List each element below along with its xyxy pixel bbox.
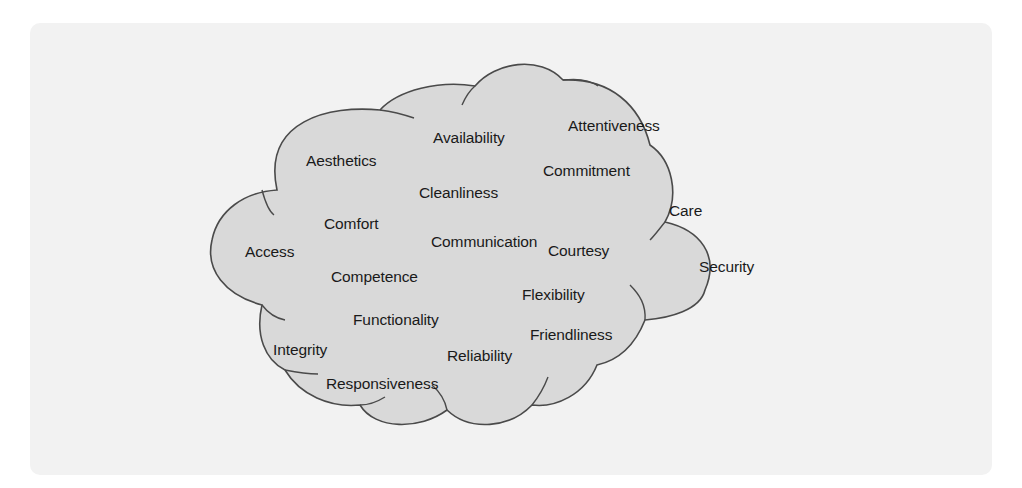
label-friendliness: Friendliness	[530, 326, 612, 344]
label-functionality: Functionality	[353, 311, 439, 329]
label-competence: Competence	[331, 268, 418, 286]
label-aesthetics: Aesthetics	[306, 152, 377, 170]
label-access: Access	[245, 243, 294, 261]
label-reliability: Reliability	[447, 347, 512, 365]
label-cleanliness: Cleanliness	[419, 184, 498, 202]
label-responsiveness: Responsiveness	[326, 375, 438, 393]
label-security: Security	[699, 258, 754, 276]
label-communication: Communication	[431, 233, 537, 251]
label-care: Care	[669, 202, 702, 220]
label-availability: Availability	[433, 129, 505, 147]
label-courtesy: Courtesy	[548, 242, 609, 260]
label-attentiveness: Attentiveness	[568, 117, 660, 135]
label-comfort: Comfort	[324, 215, 378, 233]
label-integrity: Integrity	[273, 341, 327, 359]
label-commitment: Commitment	[543, 162, 630, 180]
label-flexibility: Flexibility	[522, 286, 585, 304]
